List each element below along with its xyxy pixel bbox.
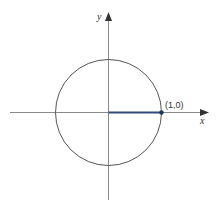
y-axis-arrow-icon bbox=[105, 12, 112, 21]
point-label: (1,0) bbox=[165, 100, 184, 110]
y-axis-label: y bbox=[96, 11, 102, 22]
x-axis-label: x bbox=[199, 115, 205, 126]
point-marker bbox=[159, 110, 163, 114]
unit-circle-diagram: (1,0) x y bbox=[0, 0, 218, 201]
